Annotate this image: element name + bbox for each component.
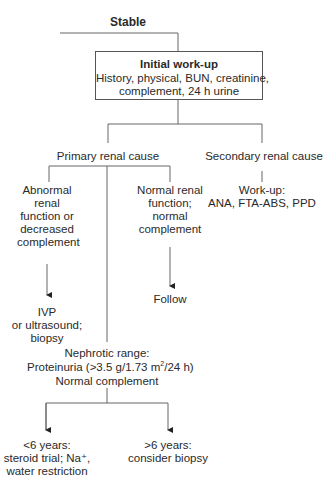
initial-workup-box: Initial work-up History, physical, BUN, …: [95, 51, 263, 100]
over6-line2: consider biopsy: [128, 452, 208, 466]
normal-line: Normal renal: [135, 184, 205, 198]
abnormal-line: renal: [17, 197, 77, 211]
secondary-workup-title: Work-up:: [212, 184, 312, 198]
abnormal-line: complement: [17, 236, 77, 250]
abnormal-line: function or: [17, 210, 77, 224]
nephrotic-line1: Nephrotic range:: [47, 347, 167, 361]
initial-workup-title: Initial work-up: [96, 58, 262, 72]
follow-node: Follow: [145, 293, 195, 307]
abnormal-action-line: biopsy: [7, 332, 87, 346]
nephrotic-line2-pre: Proteinuria (>3.5 g/1.73 m: [27, 361, 160, 373]
abnormal-line: Abnormal: [17, 184, 77, 198]
nephrotic-line2: Proteinuria (>3.5 g/1.73 m2/24 h): [27, 361, 187, 375]
abnormal-action-line: or ultrasound;: [7, 319, 87, 333]
secondary-workup-tests: ANA, FTA-ABS, PPD: [202, 197, 322, 211]
stable-label: Stable: [100, 16, 156, 30]
under6-line1: <6 years:: [2, 439, 92, 453]
normal-line: normal: [135, 210, 205, 224]
abnormal-action-line: IVP: [7, 306, 87, 320]
initial-workup-line2: complement, 24 h urine: [96, 85, 262, 99]
under6-line3: water restriction: [2, 465, 92, 479]
primary-renal-cause-label: Primary renal cause: [48, 150, 168, 164]
abnormal-line: decreased: [17, 223, 77, 237]
initial-workup-line1: History, physical, BUN, creatinine,: [96, 72, 262, 86]
nephrotic-line3: Normal complement: [47, 375, 167, 389]
normal-line: function;: [135, 197, 205, 211]
secondary-renal-cause-label: Secondary renal cause: [205, 150, 323, 164]
under6-line2: steroid trial; Na⁺,: [2, 452, 92, 466]
over6-line1: >6 years:: [128, 439, 208, 453]
normal-line: complement: [135, 223, 205, 237]
nephrotic-line2-post: /24 h): [164, 361, 193, 373]
